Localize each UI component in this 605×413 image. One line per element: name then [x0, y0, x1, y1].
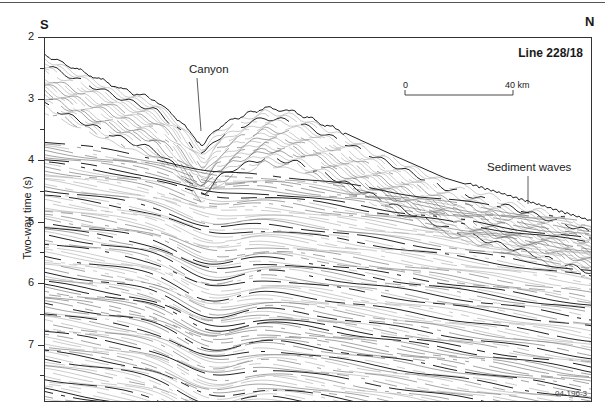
seismic-reflector: [45, 262, 592, 344]
y-tick-label: 2: [20, 30, 34, 42]
seismic-reflector: [45, 268, 592, 356]
seismic-reflector: [57, 401, 97, 402]
sediment-waves-annotation: Sediment waves: [487, 161, 571, 173]
figure-id: 04-196-3: [555, 389, 587, 398]
scale-bar-line: [404, 88, 516, 98]
sediment-waves-pointer-line: [525, 175, 535, 207]
seismic-reflector: [45, 260, 592, 343]
seismic-reflector: [45, 240, 592, 324]
seismic-reflector: [45, 301, 592, 390]
seismic-reflector: [45, 247, 592, 331]
seismic-reflector: [45, 307, 592, 394]
y-tick-label: 4: [20, 153, 34, 165]
canyon-pointer-line: [190, 76, 210, 136]
seismic-reflector: [45, 264, 592, 348]
seismic-reflector: [45, 280, 592, 364]
y-tick-label: 3: [20, 92, 34, 104]
top-rule: [0, 2, 605, 3]
seismic-reflector: [45, 388, 149, 402]
seismic-reflector: [53, 225, 592, 306]
seismic-reflector: [45, 368, 193, 402]
canyon-annotation: Canyon: [189, 63, 229, 75]
seismic-reflector: [45, 297, 592, 381]
seismic-reflector: [45, 244, 592, 326]
seismic-reflector: [45, 392, 145, 403]
y-tick-label: 6: [20, 276, 34, 288]
seismic-reflector: [53, 325, 569, 402]
seismic-reflector: [45, 287, 592, 375]
y-tick-label: 5: [20, 215, 34, 227]
seismic-reflector: [49, 281, 592, 367]
seismic-reflector: [45, 187, 589, 269]
seismic-reflector: [49, 235, 592, 320]
y-tick-label: 7: [20, 338, 34, 350]
seismic-line-title: Line 228/18: [518, 46, 583, 60]
seismic-reflector: [45, 208, 592, 289]
direction-north-label: N: [585, 14, 594, 29]
direction-south-label: S: [40, 17, 49, 32]
